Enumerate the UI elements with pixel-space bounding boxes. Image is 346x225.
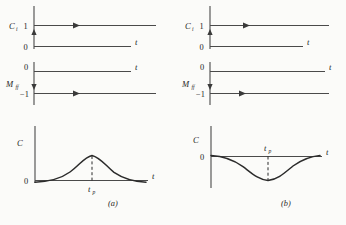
up-arrow-icon bbox=[31, 29, 36, 35]
right-arrow-icon bbox=[73, 23, 80, 29]
signal-response-figure: C i 1 0 t M ff 0 −1 t C 0 t bbox=[0, 0, 346, 225]
right-arrow-icon bbox=[243, 23, 250, 29]
c-axis-label: C bbox=[193, 135, 199, 145]
c-axis-label: C bbox=[17, 138, 23, 148]
panel-a-mff-plot: M ff 0 −1 t bbox=[5, 62, 156, 106]
mff-axis-label: M bbox=[181, 79, 190, 89]
ci-axis-label: C bbox=[185, 21, 191, 31]
peak-time-label-sub: p bbox=[268, 148, 272, 154]
panel-a-ci-plot: C i 1 0 t bbox=[9, 6, 156, 52]
peak-time-label-sub: p bbox=[92, 189, 96, 195]
panel-b-caption: (b) bbox=[281, 199, 291, 208]
x-axis-label: t bbox=[326, 147, 329, 157]
ytick-zero-label: 0 bbox=[200, 153, 204, 162]
ci-axis-label: C bbox=[9, 21, 15, 31]
negative-dip-curve bbox=[211, 156, 320, 181]
ytick-low-label: −1 bbox=[20, 90, 29, 99]
peak-time-label: t bbox=[88, 184, 91, 194]
ytick-high-label: 1 bbox=[24, 22, 28, 31]
right-arrow-icon bbox=[239, 91, 246, 97]
panel-b-c-plot: C 0 t p t bbox=[193, 126, 329, 188]
ytick-high-label: 1 bbox=[200, 22, 204, 31]
panel-b-mff-plot: M ff 0 −1 t bbox=[181, 62, 332, 106]
panel-a-c-plot: C 0 t p t bbox=[17, 126, 155, 195]
panel-a: C i 1 0 t M ff 0 −1 t C 0 t bbox=[5, 6, 156, 208]
down-arrow-icon bbox=[31, 84, 36, 90]
peak-time-label: t bbox=[264, 143, 267, 153]
ytick-low-label: 0 bbox=[200, 43, 204, 52]
panel-b-ci-plot: C i 1 0 t bbox=[185, 6, 329, 52]
ytick-high-label: 0 bbox=[24, 63, 28, 72]
ci-axis-label-sub: i bbox=[192, 26, 194, 32]
x-axis-label: t bbox=[135, 37, 138, 47]
ytick-high-label: 0 bbox=[200, 63, 204, 72]
positive-bump-curve bbox=[35, 155, 146, 182]
figure-canvas: C i 1 0 t M ff 0 −1 t C 0 t bbox=[0, 0, 346, 225]
x-axis-label: t bbox=[152, 171, 155, 181]
right-arrow-icon bbox=[73, 91, 80, 97]
ci-axis-label-sub: i bbox=[16, 26, 18, 32]
ytick-low-label: −1 bbox=[196, 90, 205, 99]
panel-a-caption: (a) bbox=[108, 199, 118, 208]
x-axis-label: t bbox=[329, 62, 332, 72]
ytick-zero-label: 0 bbox=[24, 177, 28, 186]
ytick-low-label: 0 bbox=[24, 43, 28, 52]
x-axis-label: t bbox=[135, 62, 138, 72]
x-axis-label: t bbox=[307, 37, 310, 47]
up-arrow-icon bbox=[207, 29, 212, 35]
mff-axis-label: M bbox=[5, 79, 14, 89]
down-arrow-icon bbox=[207, 84, 212, 90]
panel-b: C i 1 0 t M ff 0 −1 t C 0 t bbox=[181, 6, 332, 208]
